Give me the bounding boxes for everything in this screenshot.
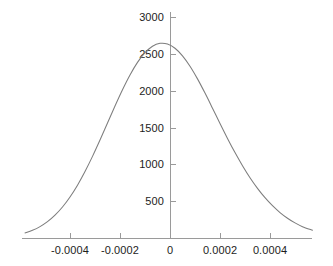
chart-canvas: -0.0004-0.000200.00020.0004 500100015002… (0, 0, 333, 266)
x-tick-label: 0.0004 (253, 244, 287, 256)
x-axis-tick-labels: -0.0004-0.000200.00020.0004 (51, 244, 287, 256)
y-tick-label: 500 (145, 195, 164, 207)
y-tick-label: 2000 (139, 85, 164, 97)
x-tick-label: -0.0004 (51, 244, 89, 256)
x-tick-label: 0 (167, 244, 173, 256)
y-tick-label: 3000 (139, 11, 164, 23)
y-axis-tick-labels: 50010001500200025003000 (139, 11, 164, 207)
chart-svg: -0.0004-0.000200.00020.0004 500100015002… (0, 0, 333, 266)
x-tick-label: -0.0002 (101, 244, 139, 256)
gaussian-curve-path (25, 43, 313, 233)
y-tick-label: 1500 (139, 122, 164, 134)
y-tick-label: 1000 (139, 158, 164, 170)
x-tick-label: 0.0002 (203, 244, 237, 256)
y-axis-tick-marks (171, 18, 176, 202)
axes-group (22, 12, 312, 239)
data-series-group (25, 43, 313, 233)
y-tick-label: 2500 (139, 48, 164, 60)
